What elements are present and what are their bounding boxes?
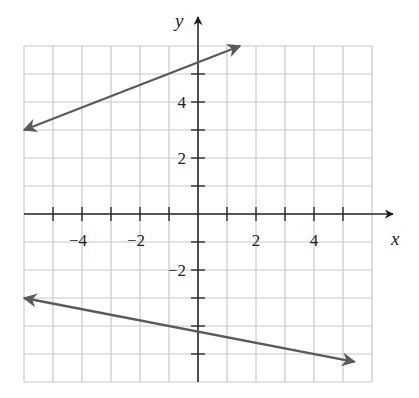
x-axis-label: x [390, 228, 400, 249]
y-tick-label: 4 [178, 93, 187, 112]
coordinate-plane: −4−22442−2 y x [0, 0, 419, 398]
axes [24, 17, 393, 382]
y-tick-label: −2 [168, 261, 186, 280]
lower-line [24, 298, 355, 362]
x-tick-label: 2 [252, 231, 261, 250]
x-tick-label: −2 [127, 231, 145, 250]
x-tick-label: 4 [310, 231, 319, 250]
upper-line [24, 46, 240, 130]
y-tick-label: 2 [178, 149, 187, 168]
y-axis-label: y [173, 10, 184, 31]
graph-lines [24, 46, 355, 362]
x-tick-label: −4 [69, 231, 88, 250]
